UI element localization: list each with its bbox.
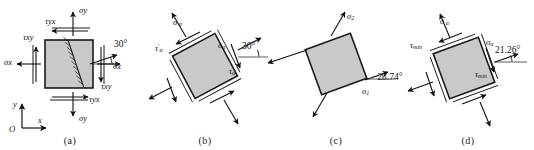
sigma-x-left-label: σx: [4, 58, 12, 67]
sigma-alpha-prime-label-b: σ′α: [173, 17, 182, 27]
tau-min-bottom-arrow-d: [462, 95, 486, 104]
stress-element-a: [45, 40, 93, 88]
panel-c: σ2 σ1 −23.74° (c): [270, 0, 402, 150]
caption-d: (d): [402, 135, 534, 146]
angle-label-c: −23.74°: [372, 73, 403, 83]
tau-xy-left-label: τxy: [23, 33, 34, 42]
tau-min-upper-label-d: τmin: [410, 41, 422, 50]
sigma-y-bottom-label: σy: [79, 114, 87, 123]
angle-label-d: 21.26°: [495, 46, 520, 56]
sigma-y-top-label: σy: [79, 6, 87, 15]
stress-element-c: [305, 33, 367, 95]
stress-element-b: [173, 34, 238, 99]
sigma-2-label-c: σ2: [347, 12, 354, 21]
angle-label-a: 30°: [114, 40, 127, 50]
angle-arc-a: [111, 58, 112, 64]
tau-min-lower-label-d: τmin: [475, 70, 487, 79]
panel-b-graphics: [140, 0, 270, 150]
tau-alpha-prime-arrow-b: [176, 32, 200, 44]
stress-transformation-figure: σy σy σx σx τyx τyx τxy τxy 30° y x O (a…: [0, 0, 534, 150]
tau-yx-bottom-label: τyx: [89, 95, 100, 104]
sigma-1-arrow-opposite-c: [268, 50, 307, 63]
sigma-x-right-label: σx: [113, 62, 121, 71]
caption-b: (b): [140, 135, 270, 146]
tau-alpha-label-b: τα: [229, 67, 235, 76]
tau-yx-top-label: τyx: [45, 17, 56, 26]
caption-a: (a): [0, 135, 140, 146]
sigma-2-arrow-c: [331, 12, 345, 36]
panel-a: σy σy σx σx τyx τyx τxy τxy 30° y x O (a…: [0, 0, 140, 150]
angle-arc-b: [257, 50, 259, 57]
sigma-alpha-label-b: σα: [218, 41, 225, 50]
angle-label-b: 30°: [242, 42, 255, 52]
tau-xy-right-label: τxy: [101, 82, 112, 91]
sigma-alpha-arrow-opposite-b: [149, 87, 172, 99]
x-axis-label: x: [38, 116, 42, 125]
sigma-alpha-prime-arrow-opposite-d: [480, 102, 490, 126]
caption-c: (c): [270, 135, 402, 146]
panel-d-graphics: [402, 0, 534, 150]
panel-d: σ′α σα τmin τmin 21.26° (d): [402, 0, 534, 150]
sigma-2-arrow-opposite-c: [313, 93, 327, 117]
sigma-alpha-prime-label-d: σ′α: [440, 16, 449, 26]
tau-alpha-prime-opposite-arrow-b: [167, 78, 176, 102]
sigma-1-label-c: σ1: [362, 87, 369, 96]
sigma-alpha-label-d: σα: [486, 38, 493, 47]
origin-label: O: [9, 125, 15, 134]
y-axis-label: y: [13, 100, 17, 109]
panel-a-graphics: [0, 0, 140, 150]
sigma-alpha-prime-arrow-opposite-b: [224, 100, 238, 124]
tau-alpha-prime-label-b: τ′α: [155, 43, 163, 53]
panel-b: σ′α τ′α σα τα 30° (b): [140, 0, 270, 150]
stress-element-c-group: [305, 33, 367, 95]
